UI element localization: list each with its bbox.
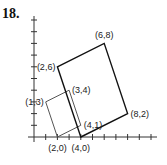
point-label: (8,2) bbox=[131, 109, 150, 119]
small-rectangle bbox=[46, 90, 81, 137]
point-label: (6,8) bbox=[95, 30, 114, 40]
point-label: (3,4) bbox=[72, 85, 91, 95]
point-label: (1,3) bbox=[25, 97, 44, 107]
point-label: (2,6) bbox=[37, 62, 56, 72]
point-label: (2,0) bbox=[48, 143, 67, 153]
point-label: (4,0) bbox=[72, 143, 91, 153]
coordinate-diagram: (6,8)(2,6)(1,3)(3,4)(4,1)(8,2)(2,0)(4,0) bbox=[0, 0, 167, 165]
point-label: (4,1) bbox=[84, 120, 103, 130]
